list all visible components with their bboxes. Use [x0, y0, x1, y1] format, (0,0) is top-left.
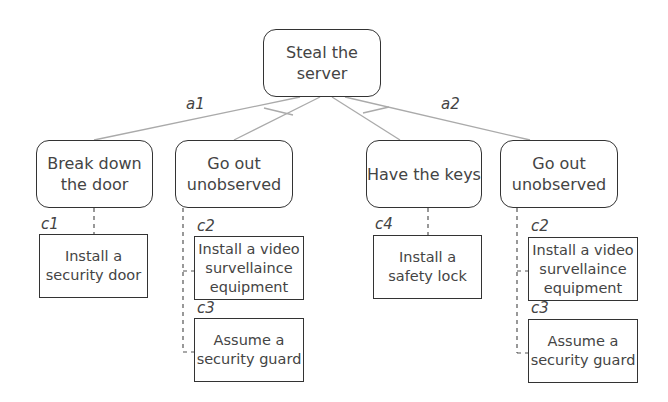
- goal-label: Go out unobserved: [512, 153, 606, 195]
- goal-go-out-right: Go out unobserved: [500, 140, 618, 208]
- root-goal: Steal the server: [263, 29, 381, 97]
- control-id-c3-left: c3: [197, 299, 215, 317]
- control-label: Assume a security guard: [197, 331, 302, 369]
- control-id-c4: c4: [375, 215, 393, 233]
- control-label: Assume a security guard: [531, 332, 636, 370]
- goal-label: Break down the door: [47, 153, 141, 195]
- branch-label-a1: a1: [186, 95, 205, 113]
- control-id-c2-left: c2: [197, 217, 215, 235]
- control-c4: Install a safety lock: [373, 235, 482, 299]
- control-label: Install a security door: [46, 247, 141, 285]
- control-c1: Install a security door: [39, 234, 148, 298]
- control-c2-left: Install a video survellaince equipment: [194, 236, 304, 300]
- control-label: Install a safety lock: [388, 248, 467, 286]
- edge-root-go-out-left: [234, 97, 320, 140]
- root-goal-label: Steal the server: [286, 42, 358, 84]
- control-id-c1: c1: [41, 215, 59, 233]
- goal-label: Have the keys: [367, 164, 481, 185]
- control-label: Install a video survellaince equipment: [532, 241, 633, 298]
- and-arc-a1: [264, 108, 293, 115]
- edge-root-have-keys: [332, 97, 400, 140]
- edge-root-go-out-right: [345, 97, 530, 140]
- goal-have-keys: Have the keys: [366, 140, 482, 208]
- branch-label-a2: a2: [441, 95, 460, 113]
- control-c2-right: Install a video survellaince equipment: [528, 237, 638, 301]
- goal-label: Go out unobserved: [187, 153, 281, 195]
- control-id-c2-right: c2: [531, 217, 549, 235]
- control-c3-left: Assume a security guard: [194, 318, 304, 382]
- control-id-c3-right: c3: [531, 299, 549, 317]
- and-arc-a2: [363, 107, 389, 113]
- goal-go-out-left: Go out unobserved: [175, 140, 293, 208]
- goal-break-door: Break down the door: [36, 140, 153, 208]
- control-label: Install a video survellaince equipment: [198, 240, 299, 297]
- control-c3-right: Assume a security guard: [528, 319, 638, 383]
